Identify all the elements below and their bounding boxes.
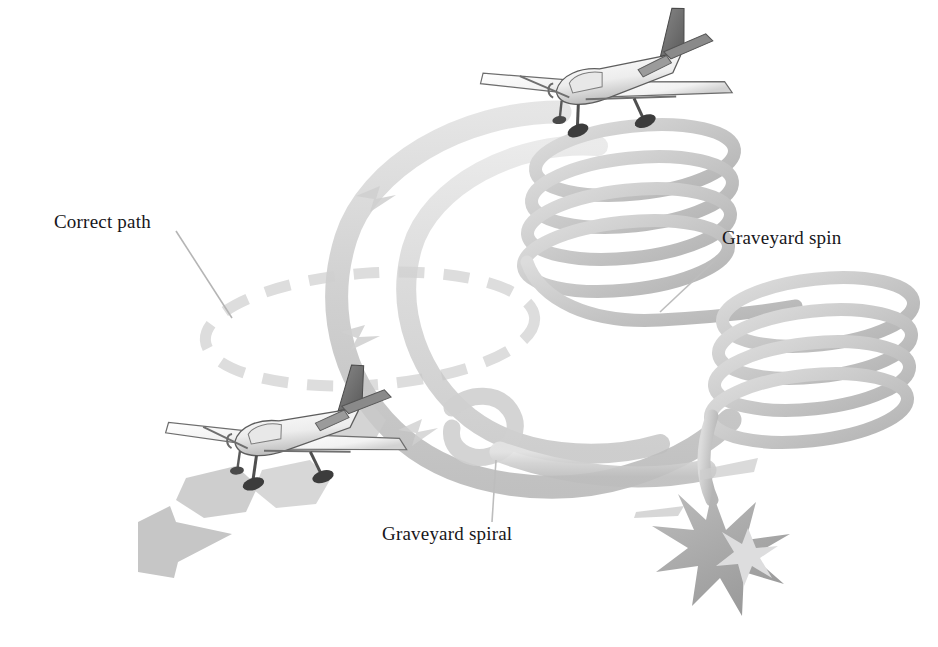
label-correct-path: Correct path <box>54 212 151 231</box>
label-graveyard-spin: Graveyard spin <box>722 228 841 247</box>
arrow-lower-left <box>138 506 232 578</box>
illustration-canvas: Correct path Graveyard spin Graveyard sp… <box>0 0 938 647</box>
correct-path-leader-line <box>176 231 232 318</box>
diagram-svg <box>0 0 938 647</box>
label-graveyard-spiral: Graveyard spiral <box>382 524 512 543</box>
correct-path-ellipse <box>201 262 538 397</box>
